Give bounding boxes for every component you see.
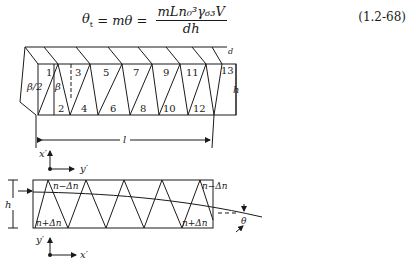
svg-text:11: 11 xyxy=(186,67,199,78)
svg-text:y′: y′ xyxy=(79,163,89,174)
svg-text:n−Δn: n−Δn xyxy=(53,181,79,191)
svg-text:6: 6 xyxy=(110,103,116,114)
svg-text:n−Δn: n−Δn xyxy=(202,181,228,191)
svg-text:9: 9 xyxy=(163,67,169,78)
prism-perspective xyxy=(20,47,236,148)
svg-text:β/2: β/2 xyxy=(26,81,43,92)
svg-text:β: β xyxy=(54,81,61,92)
top-view xyxy=(8,151,262,255)
svg-text:10: 10 xyxy=(163,103,176,114)
svg-text:x′: x′ xyxy=(80,249,89,260)
svg-text:y′: y′ xyxy=(35,234,45,245)
svg-text:3: 3 xyxy=(75,67,81,78)
svg-text:θ: θ xyxy=(241,216,247,226)
svg-text:n+Δn: n+Δn xyxy=(36,218,62,228)
svg-text:4: 4 xyxy=(81,103,87,114)
prism-labels: 1 2 3 4 5 6 7 8 9 10 11 12 13 β/2 β l h … xyxy=(26,47,239,145)
deflector-figure: 1 2 3 4 5 6 7 8 9 10 11 12 13 β/2 β l h … xyxy=(0,0,416,265)
svg-text:5: 5 xyxy=(103,67,109,78)
svg-text:8: 8 xyxy=(140,103,146,114)
svg-text:2: 2 xyxy=(58,103,64,114)
svg-text:1: 1 xyxy=(46,67,52,78)
svg-text:h: h xyxy=(233,84,239,95)
svg-text:h: h xyxy=(5,199,11,210)
svg-text:7: 7 xyxy=(133,67,139,78)
svg-text:x′: x′ xyxy=(39,148,48,159)
svg-text:l: l xyxy=(123,134,126,145)
svg-text:n+Δn: n+Δn xyxy=(182,218,208,228)
svg-text:12: 12 xyxy=(193,103,206,114)
svg-text:13: 13 xyxy=(221,65,234,76)
svg-text:d: d xyxy=(228,47,233,56)
